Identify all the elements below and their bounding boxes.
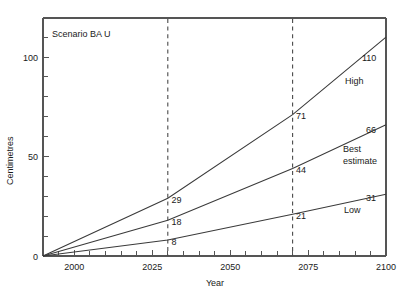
series-label-best-estimate-line1: Best [343, 144, 362, 154]
point-label-best-2070: 44 [296, 165, 306, 175]
sea-level-rise-chart: 0 50 100 Centimetres [0, 0, 417, 294]
x-tick-label-2025: 2025 [142, 262, 162, 272]
series-line-high [43, 37, 386, 256]
x-tick-label-2050: 2050 [220, 262, 240, 272]
point-label-best-2030: 18 [172, 217, 182, 227]
point-label-low-2030: 8 [172, 237, 177, 247]
point-label-high-2030: 29 [172, 195, 182, 205]
point-label-high-2070: 71 [296, 111, 306, 121]
x-axis-title: Year [206, 278, 224, 288]
end-label-high: 110 [362, 53, 376, 63]
series-label-low: Low [344, 205, 361, 215]
y-tick-label-50: 50 [28, 152, 38, 162]
end-label-best-estimate: 66 [366, 125, 376, 135]
x-tick-label-2075: 2075 [298, 262, 318, 272]
series-line-best-estimate [43, 125, 386, 256]
y-axis-ticks [43, 37, 49, 256]
chart-svg: 0 50 100 Centimetres [0, 0, 417, 294]
series-line-low [43, 194, 386, 256]
x-tick-label-2100: 2100 [376, 262, 396, 272]
end-label-low: 31 [366, 193, 376, 203]
x-axis-ticks [43, 250, 386, 256]
scenario-annotation: Scenario BA U [52, 29, 111, 39]
series-label-best-estimate-line2: estimate [343, 156, 377, 166]
x-tick-label-2000: 2000 [64, 262, 84, 272]
y-axis-title: Centimetres [5, 136, 15, 185]
plot-frame [43, 18, 386, 256]
y-tick-label-100: 100 [23, 53, 38, 63]
series-label-high: High [345, 76, 364, 86]
y-tick-label-0: 0 [33, 252, 38, 262]
point-label-low-2070: 21 [296, 211, 306, 221]
